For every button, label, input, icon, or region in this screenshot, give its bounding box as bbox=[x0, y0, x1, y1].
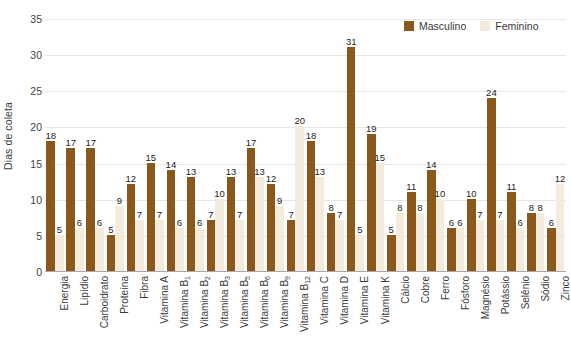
bar-value-label: 6 bbox=[549, 217, 554, 227]
bar-feminino[interactable]: 12 bbox=[556, 184, 565, 271]
x-axis-label: Vitamina B3 bbox=[205, 274, 225, 351]
bar-masculino[interactable]: 7 bbox=[207, 220, 216, 271]
bar-masculino[interactable]: 11 bbox=[507, 192, 516, 272]
bar-masculino[interactable]: 13 bbox=[227, 177, 236, 271]
bar-feminino[interactable]: 6 bbox=[95, 228, 104, 271]
bar-masculino[interactable]: 13 bbox=[187, 177, 196, 271]
bar-masculino[interactable]: 18 bbox=[46, 141, 55, 271]
bar-feminino[interactable]: 7 bbox=[135, 220, 144, 271]
bar-masculino[interactable]: 18 bbox=[307, 141, 316, 271]
bar-group: 1410 bbox=[426, 19, 446, 271]
bar-value-label: 7 bbox=[497, 210, 502, 220]
bar-group: 1713 bbox=[245, 19, 265, 271]
bar-masculino[interactable]: 10 bbox=[467, 199, 476, 271]
bar-value-label: 6 bbox=[457, 217, 462, 227]
bar-feminino[interactable]: 6 bbox=[175, 228, 184, 271]
bar-masculino[interactable]: 6 bbox=[447, 228, 456, 271]
legend-item[interactable]: Feminino bbox=[480, 21, 538, 32]
bar-value-label: 15 bbox=[375, 152, 386, 162]
bar-feminino[interactable]: 7 bbox=[335, 220, 344, 271]
x-axis-label: Energia bbox=[45, 274, 65, 351]
bar-masculino[interactable]: 14 bbox=[427, 170, 436, 271]
x-axis-label-text: Zinco bbox=[561, 276, 571, 300]
bar-feminino[interactable]: 13 bbox=[315, 177, 324, 271]
bar-value-label: 6 bbox=[77, 217, 82, 227]
x-axis-line bbox=[45, 271, 566, 272]
bar-feminino[interactable]: 5 bbox=[355, 235, 364, 271]
bar-feminino[interactable]: 9 bbox=[115, 206, 124, 271]
legend-item[interactable]: Masculino bbox=[404, 21, 466, 32]
bar-masculino[interactable]: 6 bbox=[547, 228, 556, 271]
bar-feminino[interactable]: 6 bbox=[516, 228, 525, 271]
y-axis-tick-label: 25 bbox=[18, 86, 42, 97]
bar-slot: 8 bbox=[527, 19, 536, 271]
x-axis-label: Proteína bbox=[105, 274, 125, 351]
legend-swatch bbox=[404, 21, 414, 31]
bar-feminino[interactable]: 6 bbox=[75, 228, 84, 271]
bar-masculino[interactable]: 17 bbox=[86, 148, 95, 271]
bar-masculino[interactable]: 31 bbox=[347, 47, 356, 271]
bar-feminino[interactable]: 9 bbox=[275, 206, 284, 271]
bar-slot: 11 bbox=[407, 19, 416, 271]
bar-masculino[interactable]: 7 bbox=[287, 220, 296, 271]
y-axis-tick-label: 0 bbox=[18, 267, 42, 278]
bar-feminino[interactable]: 7 bbox=[496, 220, 505, 271]
bar-slot: 12 bbox=[267, 19, 276, 271]
bar-slot: 5 bbox=[355, 19, 364, 271]
bar-masculino[interactable]: 15 bbox=[147, 163, 156, 271]
x-axis-label: Ferro bbox=[426, 274, 446, 351]
bar-masculino[interactable]: 14 bbox=[167, 170, 176, 271]
bar-group: 118 bbox=[406, 19, 426, 271]
x-axis-label: Carboidrato bbox=[85, 274, 105, 351]
bar-feminino[interactable]: 10 bbox=[215, 199, 224, 271]
bar-slot: 6 bbox=[175, 19, 184, 271]
bar-value-label: 13 bbox=[314, 167, 325, 177]
bar-feminino[interactable]: 7 bbox=[235, 220, 244, 271]
bar-slot: 13 bbox=[255, 19, 264, 271]
bar-slot: 8 bbox=[327, 19, 336, 271]
bar-masculino[interactable]: 24 bbox=[487, 98, 496, 271]
x-axis-label: Vitamina A bbox=[145, 274, 165, 351]
bar-masculino[interactable]: 12 bbox=[267, 184, 276, 271]
bar-masculino[interactable]: 12 bbox=[127, 184, 136, 271]
bar-feminino[interactable]: 6 bbox=[195, 228, 204, 271]
bar-masculino[interactable]: 8 bbox=[527, 213, 536, 271]
bar-value-label: 7 bbox=[237, 210, 242, 220]
bar-value-label: 6 bbox=[517, 217, 522, 227]
bar-slot: 17 bbox=[66, 19, 75, 271]
bar-feminino[interactable]: 8 bbox=[396, 213, 405, 271]
bar-feminino[interactable]: 15 bbox=[376, 163, 385, 271]
bar-slot: 10 bbox=[436, 19, 445, 271]
bar-feminino[interactable]: 6 bbox=[456, 228, 465, 271]
bar-feminino[interactable]: 5 bbox=[55, 235, 64, 271]
bar-value-label: 5 bbox=[357, 224, 362, 234]
bar-slot: 12 bbox=[127, 19, 136, 271]
bar-feminino[interactable]: 20 bbox=[295, 126, 304, 271]
bar-masculino[interactable]: 8 bbox=[327, 213, 336, 271]
bar-feminino[interactable]: 7 bbox=[476, 220, 485, 271]
bar-feminino[interactable]: 7 bbox=[155, 220, 164, 271]
bar-value-label: 6 bbox=[449, 217, 454, 227]
bar-slot: 7 bbox=[335, 19, 344, 271]
bar-feminino[interactable]: 13 bbox=[255, 177, 264, 271]
bar-feminino[interactable]: 8 bbox=[536, 213, 545, 271]
bar-slot: 20 bbox=[295, 19, 304, 271]
bar-feminino[interactable]: 10 bbox=[436, 199, 445, 271]
bar-chart: Dias de coleta 35302520151050 1851761765… bbox=[0, 0, 571, 351]
bar-group: 59 bbox=[105, 19, 125, 271]
bar-feminino[interactable]: 8 bbox=[416, 213, 425, 271]
bar-masculino[interactable]: 5 bbox=[107, 235, 116, 271]
y-axis-tick-label: 30 bbox=[18, 50, 42, 61]
bar-value-label: 8 bbox=[417, 203, 422, 213]
bar-value-label: 12 bbox=[555, 174, 566, 184]
bar-masculino[interactable]: 17 bbox=[66, 148, 75, 271]
bar-masculino[interactable]: 11 bbox=[407, 192, 416, 272]
bar-slot: 7 bbox=[235, 19, 244, 271]
bar-slot: 6 bbox=[75, 19, 84, 271]
bar-slot: 24 bbox=[487, 19, 496, 271]
bar-slot: 13 bbox=[227, 19, 236, 271]
bar-masculino[interactable]: 5 bbox=[387, 235, 396, 271]
bar-value-label: 10 bbox=[214, 188, 225, 198]
bar-slot: 8 bbox=[416, 19, 425, 271]
bar-value-label: 8 bbox=[397, 203, 402, 213]
